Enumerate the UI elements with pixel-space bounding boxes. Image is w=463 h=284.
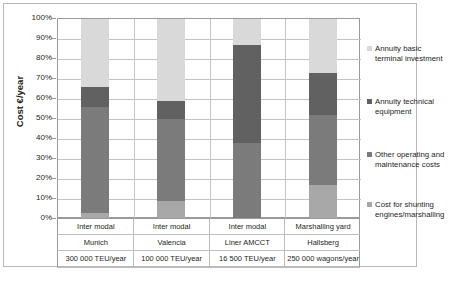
bar-segment[interactable] xyxy=(81,87,109,107)
category-cell-2: Inter modalValencia100 000 TEU/year xyxy=(133,218,209,267)
category-cell-3: Inter modalLiner AMCCT16 500 TEU/year xyxy=(209,218,285,267)
category-cell-1: Inter modalMunich300 000 TEU/year xyxy=(57,218,133,267)
category-table-rule xyxy=(57,218,360,219)
y-tick-label: 100% xyxy=(6,13,52,23)
category-label-line1: Inter modal xyxy=(210,222,286,231)
y-tick-mark xyxy=(52,38,56,39)
y-tick-mark xyxy=(52,58,56,59)
bar-2[interactable] xyxy=(157,19,185,219)
y-tick-mark xyxy=(52,118,56,119)
bar-segment[interactable] xyxy=(309,115,337,185)
column-separator xyxy=(210,19,211,219)
bar-segment[interactable] xyxy=(309,185,337,219)
bar-segment[interactable] xyxy=(81,107,109,213)
legend-swatch-icon xyxy=(367,202,372,207)
category-table-rule xyxy=(57,250,360,251)
category-label-line2: Hallsberg xyxy=(285,238,361,247)
category-table-rule xyxy=(57,267,360,268)
y-tick-mark xyxy=(52,138,56,139)
chart-root: Cost €/year 100%90%80%70%60%50%40%30%20%… xyxy=(0,0,463,284)
bar-segment[interactable] xyxy=(233,19,261,45)
y-tick-mark xyxy=(52,218,56,219)
category-label-line2: Valencia xyxy=(134,238,210,247)
bar-segment[interactable] xyxy=(157,19,185,101)
category-label-line3: 300 000 TEU/year xyxy=(58,254,134,263)
y-tick-mark xyxy=(52,98,56,99)
column-separator xyxy=(134,19,135,219)
bar-segment[interactable] xyxy=(157,201,185,219)
category-label-line3: 100 000 TEU/year xyxy=(134,254,210,263)
bar-segment[interactable] xyxy=(157,101,185,119)
y-tick-label: 80% xyxy=(6,53,52,63)
legend-label: Annuity basicterminal investment xyxy=(375,44,463,64)
category-label-line2: Liner AMCCT xyxy=(210,238,286,247)
y-tick-mark xyxy=(52,178,56,179)
bar-1[interactable] xyxy=(81,19,109,219)
y-tick-label: 60% xyxy=(6,93,52,103)
y-tick-mark xyxy=(52,18,56,19)
y-tick-label: 70% xyxy=(6,73,52,83)
legend-label-line2: terminal investment xyxy=(375,54,463,64)
legend-label: Other operating andmaintenance costs xyxy=(375,150,463,170)
bar-segment[interactable] xyxy=(157,119,185,201)
y-tick-mark xyxy=(52,78,56,79)
bar-3[interactable] xyxy=(233,19,261,219)
legend-label-line2: equipment xyxy=(375,107,463,117)
legend-label: Cost for shuntingengines/marshalling xyxy=(375,200,463,220)
category-label-line1: Marshalling yard xyxy=(285,222,361,231)
legend-label-line2: maintenance costs xyxy=(375,160,463,170)
y-tick-label: 30% xyxy=(6,153,52,163)
column-separator xyxy=(285,19,286,219)
bar-segment[interactable] xyxy=(233,45,261,143)
plot-area xyxy=(57,18,360,218)
category-axis-table: Inter modalMunich300 000 TEU/yearInter m… xyxy=(57,218,360,267)
y-tick-label: 20% xyxy=(6,173,52,183)
category-label-line1: Inter modal xyxy=(134,222,210,231)
category-table-rule xyxy=(57,234,360,235)
y-tick-mark xyxy=(52,158,56,159)
y-tick-label: 10% xyxy=(6,193,52,203)
category-label-line2: Munich xyxy=(58,238,134,247)
y-axis-tick-labels: 100%90%80%70%60%50%40%30%20%10%0% xyxy=(0,0,52,220)
y-tick-mark xyxy=(52,198,56,199)
legend-swatch-icon xyxy=(367,99,372,104)
bar-segment[interactable] xyxy=(309,73,337,115)
category-label-line3: 250 000 wagons/year xyxy=(285,254,361,263)
legend-label: Annuity technicalequipment xyxy=(375,97,463,117)
bar-4[interactable] xyxy=(309,19,337,219)
category-label-line1: Inter modal xyxy=(58,222,134,231)
bar-segment[interactable] xyxy=(81,19,109,87)
bar-segment[interactable] xyxy=(233,143,261,219)
y-tick-label: 40% xyxy=(6,133,52,143)
legend-swatch-icon xyxy=(367,46,372,51)
category-cell-4: Marshalling yardHallsberg250 000 wagons/… xyxy=(284,218,360,267)
legend-swatch-icon xyxy=(367,152,372,157)
legend-label-line2: engines/marshalling xyxy=(375,210,463,220)
y-tick-label: 50% xyxy=(6,113,52,123)
y-tick-label: 90% xyxy=(6,33,52,43)
category-label-line3: 16 500 TEU/year xyxy=(210,254,286,263)
bar-segment[interactable] xyxy=(309,19,337,73)
y-tick-label: 0% xyxy=(6,213,52,223)
